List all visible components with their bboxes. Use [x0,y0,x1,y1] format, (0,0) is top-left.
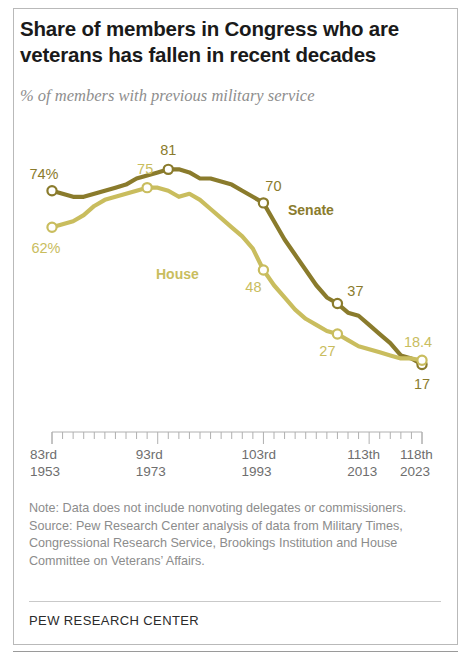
pew-chart-figure: Share of members in Congress who are vet… [0,0,471,660]
data-point-marker [47,223,56,232]
x-axis-tick-labels: 83rd195393rd1973103rd1993113th2013118th2… [0,446,471,496]
series-line-house [52,188,422,361]
data-point-label: 75 [137,161,153,177]
note-text: Note: Data does not include nonvoting de… [29,500,429,518]
x-axis-tick-label: 118th2023 [400,446,433,480]
data-point-marker [333,299,342,308]
data-point-label: 81 [160,142,176,158]
tick-congress: 103rd [241,446,276,463]
tick-year: 1993 [241,463,276,480]
chart-data-labels: 74%8170371762%75482718.4 [29,142,432,391]
x-axis-tick-label: 93rd1973 [136,446,166,480]
chart-x-axis [52,432,422,444]
data-point-label: 18.4 [404,334,432,350]
data-point-marker [143,183,152,192]
data-point-marker [417,356,426,365]
series-label-senate: Senate [288,202,334,218]
tick-congress: 118th [400,446,433,463]
data-point-label: 27 [319,343,335,359]
x-axis-tick-label: 103rd1993 [241,446,276,480]
x-axis-tick-label: 113th2013 [347,446,380,480]
tick-year: 1973 [136,463,166,480]
data-point-label: 62% [31,240,60,256]
footer-brand: PEW RESEARCH CENTER [29,613,199,628]
data-point-marker [47,186,56,195]
data-point-marker [259,198,268,207]
tick-year: 1953 [30,463,60,480]
data-point-label: 48 [245,279,261,295]
source-text: Source: Pew Research Center analysis of … [29,518,429,571]
tick-year: 2013 [347,463,380,480]
chart-series-group [52,169,422,364]
tick-congress: 113th [347,446,380,463]
data-point-marker [164,165,173,174]
tick-congress: 93rd [136,446,166,463]
series-label-house: House [156,266,199,282]
chart-markers-group [47,165,426,369]
data-point-label: 74% [29,166,58,182]
chart-notes: Note: Data does not include nonvoting de… [29,500,429,570]
tick-year: 2023 [400,463,433,480]
tick-congress: 83rd [30,446,60,463]
data-point-label: 17 [414,376,430,392]
data-point-label: 37 [347,283,363,299]
x-axis-tick-label: 83rd1953 [30,446,60,480]
data-point-label: 70 [265,178,281,194]
data-point-marker [333,329,342,338]
data-point-marker [259,265,268,274]
footer-divider [29,601,441,602]
bottom-divider [13,651,458,652]
